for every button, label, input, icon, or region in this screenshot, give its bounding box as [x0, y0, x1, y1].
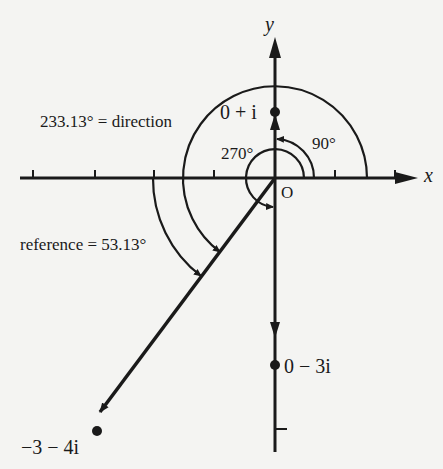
label-direction-angle: 233.13° = direction	[40, 113, 172, 130]
y-axis	[269, 37, 287, 452]
label-reference-angle: reference = 53.13°	[20, 236, 146, 253]
point-label-minus-3-minus-4i: −3 − 4i	[21, 437, 79, 457]
x-axis-arrow-icon	[395, 172, 418, 184]
point-label-0-minus-3i: 0 − 3i	[284, 356, 331, 376]
origin-label: O	[281, 184, 293, 201]
x-axis-label: x	[424, 165, 433, 185]
vector-0-plus-i	[270, 107, 280, 130]
vector-minus-3-minus-4i	[92, 178, 275, 436]
point-minus-3-minus-4i	[92, 426, 102, 436]
x-axis	[20, 170, 418, 184]
point-0-plus-i	[270, 107, 280, 117]
point-label-0-plus-i: 0 + i	[220, 102, 257, 122]
label-90-degrees: 90°	[312, 135, 336, 152]
arc-reference-53	[153, 178, 201, 276]
y-axis-arrow-icon	[269, 37, 281, 58]
label-270-degrees: 270°	[221, 145, 253, 162]
y-axis-label: y	[265, 14, 274, 34]
point-0-minus-3i	[270, 360, 280, 370]
